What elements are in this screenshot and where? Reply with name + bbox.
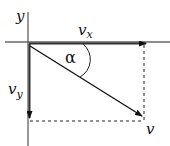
vy-label: vy bbox=[8, 80, 23, 101]
v-vector bbox=[30, 46, 142, 116]
angle-arc bbox=[80, 44, 90, 77]
y-axis-label: y bbox=[15, 7, 25, 25]
vx-label: vx bbox=[78, 21, 93, 41]
velocity-diagram: y vx α vy v bbox=[0, 0, 170, 146]
v-label: v bbox=[146, 120, 155, 138]
angle-label: α bbox=[65, 48, 76, 67]
